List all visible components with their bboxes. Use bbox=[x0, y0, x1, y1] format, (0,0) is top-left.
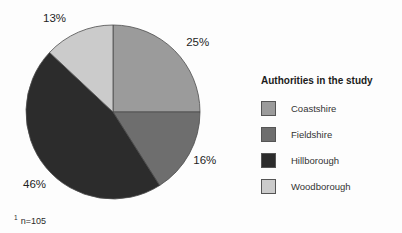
pie-label-coastshire: 25% bbox=[186, 36, 209, 48]
legend-item-fieldshire: Fieldshire bbox=[261, 127, 401, 141]
legend-label: Coastshire bbox=[291, 103, 336, 114]
pie-chart-figure: 25%16%46%13% Authorities in the study Co… bbox=[0, 0, 402, 233]
legend-swatch-fieldshire bbox=[261, 127, 276, 142]
pie-label-hillborough: 46% bbox=[23, 178, 46, 190]
legend-title: Authorities in the study bbox=[261, 75, 401, 86]
legend-label: Woodborough bbox=[291, 181, 351, 192]
footnote-marker: 1 bbox=[14, 214, 18, 221]
pie-chart: 25%16%46%13% bbox=[0, 0, 260, 233]
legend-swatch-hillborough bbox=[261, 153, 276, 168]
footnote: 1n=105 bbox=[14, 214, 46, 226]
legend-item-hillborough: Hillborough bbox=[261, 153, 401, 167]
footnote-text: n=105 bbox=[21, 216, 46, 226]
legend-swatch-coastshire bbox=[261, 101, 276, 116]
legend-item-woodborough: Woodborough bbox=[261, 179, 401, 193]
legend-item-coastshire: Coastshire bbox=[261, 101, 401, 115]
pie-label-fieldshire: 16% bbox=[193, 154, 216, 166]
legend: Authorities in the study Coastshire Fiel… bbox=[261, 75, 401, 205]
pie-label-woodborough: 13% bbox=[43, 12, 66, 24]
legend-label: Fieldshire bbox=[291, 129, 332, 140]
legend-label: Hillborough bbox=[291, 155, 339, 166]
legend-swatch-woodborough bbox=[261, 179, 276, 194]
